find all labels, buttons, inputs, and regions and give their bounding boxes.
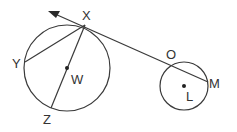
- chord-xy: [25, 25, 85, 62]
- label-m: M: [209, 76, 220, 91]
- label-o: O: [166, 47, 176, 62]
- label-z: Z: [43, 112, 51, 127]
- center-dot-w: [65, 66, 69, 70]
- label-y: Y: [12, 56, 21, 71]
- center-dot-l: [182, 84, 186, 88]
- arrow-head-icon: [48, 11, 60, 18]
- label-x: X: [82, 8, 91, 23]
- geometry-diagram: X Y Z W O M L: [0, 0, 237, 132]
- label-l: L: [186, 89, 193, 104]
- label-w: W: [71, 72, 84, 87]
